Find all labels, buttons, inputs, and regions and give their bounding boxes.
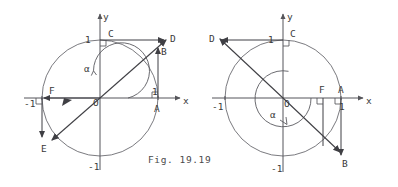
panel-left: x y 1 -1 1 -1 A B C D E F O α <box>24 11 189 172</box>
angle-arc-left <box>93 43 149 98</box>
point-label-A-left: A <box>154 103 160 114</box>
point-label-D-right: D <box>209 33 215 44</box>
point-label-E-left: E <box>41 143 47 154</box>
axis-label-x-left: x <box>183 95 189 106</box>
angle-arc-arrow-left <box>91 71 96 76</box>
point-label-C-right: C <box>290 28 296 39</box>
origin-label-right: O <box>284 98 290 109</box>
axis-label-x-right: x <box>366 95 372 106</box>
right-angle-C-right <box>283 40 289 46</box>
tick-label-x1-left: 1 <box>152 86 158 97</box>
point-label-B-right: B <box>342 158 348 169</box>
point-label-B-left: B <box>161 46 167 57</box>
point-label-A-right: A <box>338 84 344 95</box>
tick-label-x1-right: 1 <box>339 101 345 112</box>
angle-label-alpha-left: α <box>84 63 90 74</box>
tick-label-yneg1-right: -1 <box>271 163 283 174</box>
tick-label-yneg1-left: -1 <box>88 161 100 172</box>
right-angle-C-left <box>100 40 106 46</box>
figure-svg: x y 1 -1 1 -1 A B C D E F O α <box>0 0 398 187</box>
tick-label-xneg1-right: -1 <box>212 101 224 112</box>
right-angle-F-left <box>36 98 42 104</box>
origin-label-left: O <box>93 97 99 108</box>
figure-caption: Fig. 19.19 <box>148 154 211 165</box>
tick-label-y1-left: 1 <box>85 34 91 45</box>
point-label-C-left: C <box>108 28 114 39</box>
point-label-D-left: D <box>170 33 176 44</box>
tick-label-xneg1-left: -1 <box>24 98 36 109</box>
axis-label-y-left: y <box>103 11 109 22</box>
axis-label-y-right: y <box>287 11 293 22</box>
right-angle-F-right <box>317 98 323 104</box>
point-label-F-left: F <box>49 85 55 96</box>
panel-right: x y 1 -1 1 -1 A B C D F O α <box>209 11 372 174</box>
angle-label-alpha-right: α <box>270 109 276 120</box>
tick-label-y1-right: 1 <box>268 34 274 45</box>
point-label-F-right: F <box>319 84 325 95</box>
ray-OB-right <box>283 98 340 152</box>
figure-container: x y 1 -1 1 -1 A B C D E F O α <box>0 0 398 187</box>
ray-OD-right <box>220 39 283 98</box>
ray-arrow-left <box>62 98 72 106</box>
